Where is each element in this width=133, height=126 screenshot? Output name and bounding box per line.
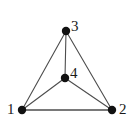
vertex-label-3: 3 [71, 19, 79, 34]
graph-edge-3-4 [65, 31, 66, 78]
vertex-label-2: 2 [119, 102, 127, 117]
graph-node-4[interactable] [61, 74, 69, 82]
graph-edge-2-4 [65, 78, 112, 110]
graph-edge-1-4 [22, 78, 65, 110]
graph-canvas [0, 0, 133, 126]
vertex-label-1: 1 [7, 102, 15, 117]
vertex-label-4: 4 [70, 66, 78, 81]
node-layer [18, 27, 116, 114]
graph-node-3[interactable] [62, 27, 70, 35]
graph-node-1[interactable] [18, 106, 26, 114]
graph-diagram: 1234 [0, 0, 133, 126]
graph-edge-1-3 [22, 31, 66, 110]
edge-layer [22, 31, 112, 110]
graph-node-2[interactable] [108, 106, 116, 114]
